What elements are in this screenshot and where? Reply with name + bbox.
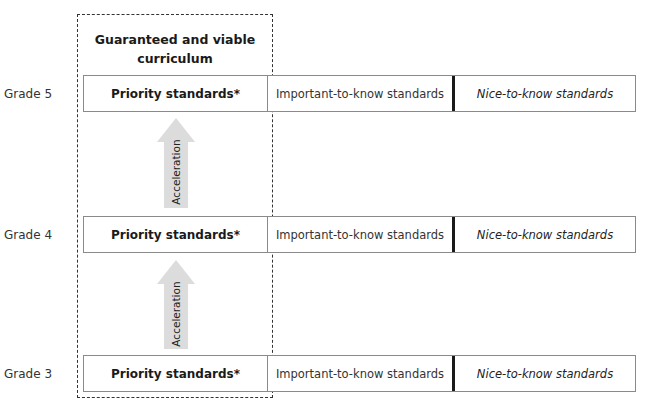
acceleration-arrow-2: Acceleration [157, 260, 195, 349]
priority-standards-cell: Priority standards* [84, 356, 268, 391]
grade-5-row: Priority standards* Important-to-know st… [83, 75, 636, 112]
grade-label-5: Grade 5 [4, 86, 68, 102]
grade-3-row: Priority standards* Important-to-know st… [83, 355, 636, 392]
important-standards-cell: Important-to-know standards [268, 356, 452, 391]
acceleration-arrow-1: Acceleration [157, 118, 195, 208]
grade-4-row: Priority standards* Important-to-know st… [83, 216, 636, 253]
important-standards-cell: Important-to-know standards [268, 76, 452, 111]
grade-label-3: Grade 3 [4, 366, 68, 382]
box-title: Guaranteed and viable curriculum [77, 30, 273, 68]
nice-standards-cell: Nice-to-know standards [455, 356, 635, 391]
acceleration-label: Acceleration [170, 136, 182, 208]
nice-standards-cell: Nice-to-know standards [455, 217, 635, 252]
grade-label-4: Grade 4 [4, 227, 68, 243]
important-standards-cell: Important-to-know standards [268, 217, 452, 252]
acceleration-label: Acceleration [170, 278, 182, 350]
nice-standards-cell: Nice-to-know standards [455, 76, 635, 111]
priority-standards-cell: Priority standards* [84, 76, 268, 111]
priority-standards-cell: Priority standards* [84, 217, 268, 252]
